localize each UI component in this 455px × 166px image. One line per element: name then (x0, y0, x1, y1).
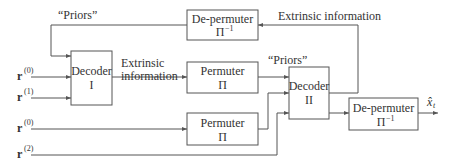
permuter-bottom-block: Permuter Π (187, 113, 258, 145)
priors-mid-label: “Priors” (268, 53, 307, 67)
permuter-top-block: Permuter Π (187, 62, 258, 93)
input-superscript: (2) (24, 144, 34, 153)
decoder-1-label: Decoder (71, 64, 112, 78)
permuter-to-decoder2-wire (258, 93, 289, 129)
input-base: r (17, 147, 23, 161)
depermuter-output-label: De-permuter (353, 101, 414, 115)
decoder-2-block: Decoder II (289, 67, 330, 119)
turbo-decoder-diagram: Decoder I De-permuter Π −1 Permuter Π Pe… (0, 0, 455, 166)
input-r0-a: r (0) (17, 66, 34, 83)
extrinsic-mid-label-2: information (121, 69, 178, 83)
depermuter-output-superscript: −1 (386, 114, 395, 123)
permuter-top-symbol: Π (218, 78, 227, 92)
depermuter-output-symbol: Π (377, 115, 386, 129)
input-r2: r (2) (17, 144, 34, 161)
input-superscript: (1) (24, 87, 34, 96)
extrinsic-top-label: Extrinsic information (278, 9, 381, 23)
input-superscript: (0) (24, 66, 34, 75)
permuter-bottom-label: Permuter (201, 116, 245, 130)
input-r0-b: r (0) (17, 118, 34, 135)
decoder-2-numeral: II (305, 93, 313, 107)
decoder-1-numeral: I (90, 78, 94, 92)
depermuter-top-block: De-permuter Π −1 (187, 10, 258, 40)
depermuter-top-superscript: −1 (225, 24, 234, 33)
output-base: x̂ (426, 95, 433, 109)
input-base: r (17, 121, 23, 135)
input-r1: r (1) (17, 87, 34, 104)
depermuter-output-block: De-permuter Π −1 (349, 98, 418, 130)
depermuter-top-symbol: Π (216, 25, 225, 39)
depermuter-top-label: De-permuter (192, 12, 253, 26)
input-base: r (17, 90, 23, 104)
extrinsic-mid-label-1: Extrinsic (121, 56, 164, 70)
decoder-2-label: Decoder (289, 79, 330, 93)
permuter-bottom-symbol: Π (218, 130, 227, 144)
decoder-1-block: Decoder I (71, 51, 112, 105)
permuter-top-label: Permuter (201, 64, 245, 78)
input-superscript: (0) (24, 118, 34, 127)
priors-top-label: “Priors” (58, 8, 97, 22)
output-xhat: x̂ t (426, 95, 436, 110)
input-base: r (17, 69, 23, 83)
output-subscript: t (433, 101, 436, 110)
